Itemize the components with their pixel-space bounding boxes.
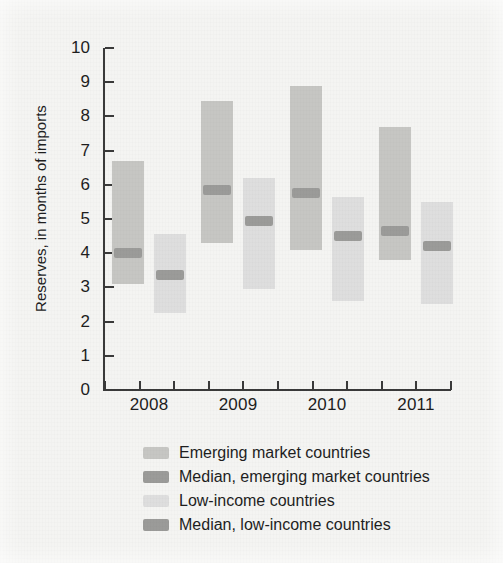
- y-tick-label-6: 6: [64, 176, 90, 193]
- y-tick-label-9: 9: [64, 73, 90, 90]
- x-tick-5: [277, 381, 279, 390]
- x-tick-label-2011: 2011: [381, 395, 451, 415]
- median-emerging-2008: [114, 248, 142, 258]
- y-tick-label-3: 3: [64, 278, 90, 295]
- x-tick-label-2010: 2010: [292, 395, 362, 415]
- median-emerging-2010: [292, 188, 320, 198]
- y-tick-2: [105, 321, 114, 323]
- median-emerging-2009: [203, 185, 231, 195]
- y-axis-title: Reserves, in months of imports: [32, 94, 49, 324]
- y-tick-label-5: 5: [64, 210, 90, 227]
- legend-item-0: Emerging market countries: [143, 441, 473, 465]
- bar-emerging-2008: [112, 161, 144, 284]
- legend-label-1: Median, emerging market countries: [179, 468, 430, 486]
- legend-swatch-1: [143, 471, 169, 483]
- median-emerging-2011: [381, 226, 409, 236]
- x-tick-6: [312, 381, 314, 390]
- y-tick-label-10: 10: [64, 39, 90, 56]
- median-low-income-2009: [245, 216, 273, 226]
- bar-emerging-2011: [379, 127, 411, 260]
- x-tick-label-2008: 2008: [114, 395, 184, 415]
- x-tick-0: [104, 381, 106, 390]
- x-tick-10: [450, 381, 452, 390]
- y-tick-9: [105, 81, 114, 83]
- x-tick-label-2009: 2009: [203, 395, 273, 415]
- y-tick-label-4: 4: [64, 244, 90, 261]
- x-tick-7: [346, 381, 348, 390]
- legend-label-2: Low-income countries: [179, 492, 335, 510]
- y-tick-3: [105, 286, 114, 288]
- bar-low-income-2009: [243, 178, 275, 289]
- median-low-income-2011: [423, 241, 451, 251]
- median-low-income-2008: [156, 270, 184, 280]
- y-tick-8: [105, 115, 114, 117]
- legend-item-1: Median, emerging market countries: [143, 465, 473, 489]
- x-tick-1: [139, 381, 141, 390]
- legend-swatch-2: [143, 495, 169, 507]
- y-tick-label-1: 1: [64, 347, 90, 364]
- bar-emerging-2010: [290, 86, 322, 250]
- bar-low-income-2011: [421, 202, 453, 305]
- y-tick-label-2: 2: [64, 313, 90, 330]
- legend-label-3: Median, low-income countries: [179, 516, 391, 534]
- y-tick-label-7: 7: [64, 142, 90, 159]
- y-tick-10: [105, 47, 114, 49]
- bar-emerging-2009: [201, 101, 233, 243]
- legend-swatch-3: [143, 519, 169, 531]
- y-tick-label-0: 0: [64, 381, 90, 398]
- legend-item-3: Median, low-income countries: [143, 513, 473, 537]
- y-tick-7: [105, 150, 114, 152]
- chart-legend: Emerging market countriesMedian, emergin…: [143, 441, 473, 537]
- x-tick-9: [415, 381, 417, 390]
- x-tick-2: [173, 381, 175, 390]
- bar-low-income-2010: [332, 197, 364, 301]
- y-tick-label-8: 8: [64, 107, 90, 124]
- x-tick-4: [242, 381, 244, 390]
- legend-item-2: Low-income countries: [143, 489, 473, 513]
- x-tick-8: [381, 381, 383, 390]
- y-tick-1: [105, 355, 114, 357]
- median-low-income-2010: [334, 231, 362, 241]
- x-tick-3: [208, 381, 210, 390]
- legend-label-0: Emerging market countries: [179, 444, 370, 462]
- legend-swatch-0: [143, 447, 169, 459]
- y-tick-0: [105, 389, 114, 391]
- chart-figure: Reserves, in months of imports 012345678…: [0, 0, 503, 563]
- plot-area: Reserves, in months of imports 012345678…: [0, 0, 503, 563]
